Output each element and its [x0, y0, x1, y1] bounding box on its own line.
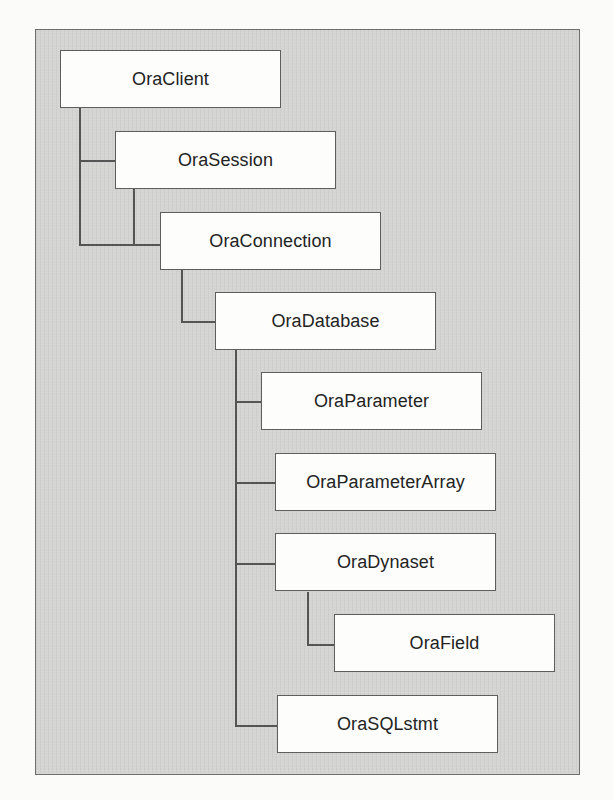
- node-orafield: OraField: [334, 614, 555, 672]
- connector-to-orasession: [79, 160, 115, 162]
- node-oradatabase: OraDatabase: [215, 292, 436, 350]
- node-label: OraSQLstmt: [337, 714, 438, 735]
- connector-oraclient-trunk: [79, 108, 81, 245]
- connector-to-orasqlstmt: [235, 725, 277, 727]
- connector-orasession-trunk: [133, 189, 135, 245]
- node-label: OraDynaset: [337, 552, 434, 573]
- connector-to-oradatabase: [181, 321, 215, 323]
- connector-to-oraparameter: [235, 401, 261, 403]
- node-label: OraConnection: [209, 231, 331, 252]
- node-label: OraParameter: [314, 391, 429, 412]
- node-oraconnection: OraConnection: [160, 212, 381, 270]
- connector-to-orafield: [307, 644, 334, 646]
- connector-oraconnection-trunk: [181, 270, 183, 322]
- clipped-text-line: [60, 0, 560, 6]
- node-oraparameter: OraParameter: [261, 372, 482, 430]
- node-oradynaset: OraDynaset: [275, 533, 496, 591]
- connector-to-oraconnection: [79, 244, 160, 246]
- node-oraclient: OraClient: [60, 50, 281, 108]
- node-label: OraField: [410, 633, 480, 654]
- connector-to-oraparameterarray: [235, 482, 275, 484]
- node-orasession: OraSession: [115, 131, 336, 189]
- node-label: OraClient: [132, 69, 209, 90]
- node-label: OraParameterArray: [306, 472, 465, 493]
- node-orasqlstmt: OraSQLstmt: [277, 695, 498, 753]
- connector-to-oradynaset: [235, 563, 275, 565]
- connector-oradynaset-trunk: [307, 592, 309, 645]
- node-label: OraSession: [178, 150, 273, 171]
- node-label: OraDatabase: [271, 311, 379, 332]
- connector-oradatabase-trunk: [235, 350, 237, 726]
- node-oraparameterarray: OraParameterArray: [275, 453, 496, 511]
